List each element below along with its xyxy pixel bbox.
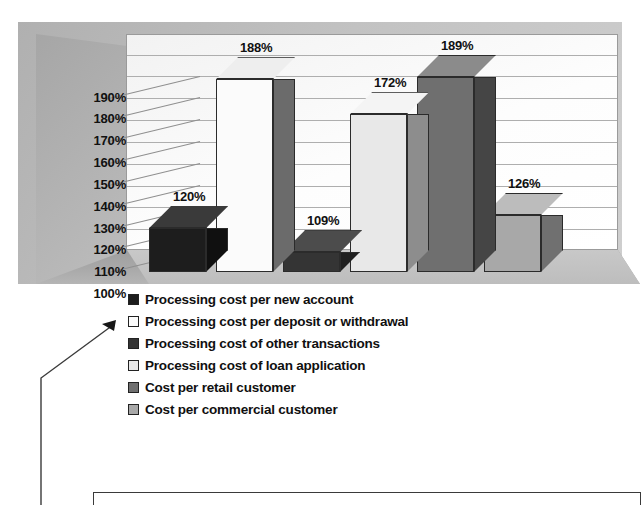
scanned-page: 100%110%120%130%140%150%160%170%180%190%… bbox=[0, 0, 644, 505]
bar-value-label: 120% bbox=[173, 189, 205, 204]
bar-front-face bbox=[149, 228, 206, 272]
arrow-left-icon bbox=[102, 320, 116, 331]
legend-swatch bbox=[128, 338, 139, 349]
bar-side-face bbox=[541, 215, 563, 272]
bar-value-label: 126% bbox=[508, 176, 540, 191]
legend-item-label: Processing cost of loan application bbox=[145, 358, 365, 373]
chart-3d-bar: 100%110%120%130%140%150%160%170%180%190%… bbox=[18, 22, 622, 284]
legend-item: Processing cost of loan application bbox=[128, 354, 458, 376]
bar-front-face bbox=[350, 114, 407, 272]
legend-item: Processing cost of other transactions bbox=[128, 332, 458, 354]
bar-front-face bbox=[283, 252, 340, 272]
bar-series: 120%188%109%172%189%126% bbox=[36, 44, 640, 306]
bar-top-face bbox=[417, 55, 496, 77]
legend-item: Processing cost per deposit or withdrawa… bbox=[128, 310, 458, 332]
legend-item-label: Processing cost per new account bbox=[145, 292, 353, 307]
bar bbox=[350, 114, 407, 272]
legend-swatch bbox=[128, 382, 139, 393]
empty-text-box bbox=[93, 492, 641, 505]
bar-side-face bbox=[273, 79, 295, 272]
chart-legend: Processing cost per new accountProcessin… bbox=[128, 288, 458, 420]
bar-value-label: 109% bbox=[307, 213, 339, 228]
legend-item-label: Processing cost of other transactions bbox=[145, 336, 380, 351]
bar-value-label: 189% bbox=[441, 38, 473, 53]
bar bbox=[283, 252, 340, 272]
legend-swatch bbox=[128, 404, 139, 415]
legend-item: Processing cost per new account bbox=[128, 288, 458, 310]
bar-value-label: 172% bbox=[374, 75, 406, 90]
bar bbox=[149, 228, 206, 272]
legend-swatch bbox=[128, 316, 139, 327]
legend-swatch bbox=[128, 360, 139, 371]
legend-item: Cost per retail customer bbox=[128, 376, 458, 398]
legend-item: Cost per commercial customer bbox=[128, 398, 458, 420]
bar-side-face bbox=[407, 114, 429, 272]
legend-item-label: Cost per retail customer bbox=[145, 380, 296, 395]
bar-side-face bbox=[474, 77, 496, 272]
legend-item-label: Cost per commercial customer bbox=[145, 402, 337, 417]
bar-value-label: 188% bbox=[240, 40, 272, 55]
bar-top-face bbox=[216, 57, 295, 79]
legend-swatch bbox=[128, 294, 139, 305]
legend-item-label: Processing cost per deposit or withdrawa… bbox=[145, 314, 408, 329]
